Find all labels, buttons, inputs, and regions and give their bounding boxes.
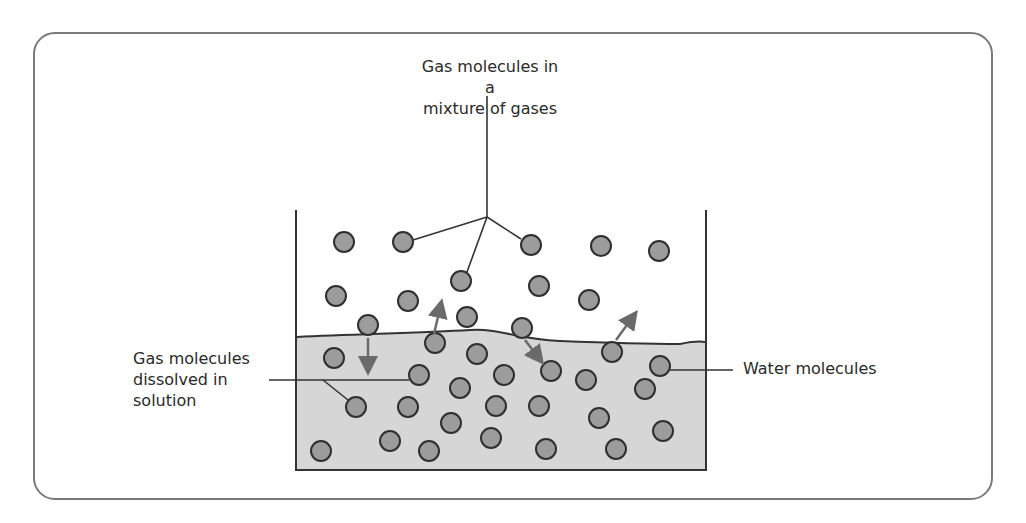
label-gas-mixture: Gas molecules in a mixture of gases xyxy=(420,56,560,119)
dissolved-molecule xyxy=(653,421,673,441)
dissolved-molecule xyxy=(481,428,501,448)
dissolved-molecule xyxy=(536,439,556,459)
dissolved-molecule xyxy=(324,348,344,368)
dissolved-molecule xyxy=(409,365,429,385)
label-line: dissolved in xyxy=(133,369,293,390)
gas-molecule xyxy=(326,286,346,306)
gas-molecule xyxy=(451,271,471,291)
gas-molecule xyxy=(358,315,378,335)
dissolved-molecule xyxy=(450,378,470,398)
label-line: solution xyxy=(133,390,293,411)
dissolved-molecule xyxy=(425,333,445,353)
gas-molecule xyxy=(457,307,477,327)
dissolved-molecule xyxy=(494,365,514,385)
gas-molecule xyxy=(393,232,413,252)
arrow-icon xyxy=(434,308,440,334)
dissolved-molecule xyxy=(602,342,622,362)
dissolved-molecule xyxy=(311,441,331,461)
gas-molecule xyxy=(579,290,599,310)
dissolved-molecule xyxy=(650,356,670,376)
label-line: mixture of gases xyxy=(420,98,560,119)
dissolved-molecule xyxy=(486,396,506,416)
gas-molecule xyxy=(591,236,611,256)
gas-molecule xyxy=(398,291,418,311)
gas-molecule xyxy=(521,235,541,255)
label-line: Gas molecules in a xyxy=(420,56,560,98)
gas-molecule xyxy=(649,241,669,261)
dissolved-molecule xyxy=(589,408,609,428)
dissolved-molecule xyxy=(576,370,596,390)
label-line: Gas molecules xyxy=(133,348,293,369)
arrow-icon xyxy=(616,318,632,340)
dissolved-molecule xyxy=(529,396,549,416)
gas-molecule xyxy=(334,232,354,252)
dissolved-molecule xyxy=(541,361,561,381)
dissolved-molecule xyxy=(398,397,418,417)
dissolved-molecule xyxy=(635,379,655,399)
label-water: Water molecules xyxy=(743,358,877,379)
dissolved-molecule xyxy=(441,413,461,433)
dissolved-molecule xyxy=(346,397,366,417)
gas-molecule xyxy=(512,318,532,338)
dissolved-molecule xyxy=(380,431,400,451)
label-dissolved: Gas molecules dissolved in solution xyxy=(133,348,293,411)
dissolved-molecule xyxy=(419,441,439,461)
dissolved-molecule xyxy=(467,344,487,364)
gas-molecule xyxy=(529,276,549,296)
dissolved-molecule xyxy=(606,439,626,459)
